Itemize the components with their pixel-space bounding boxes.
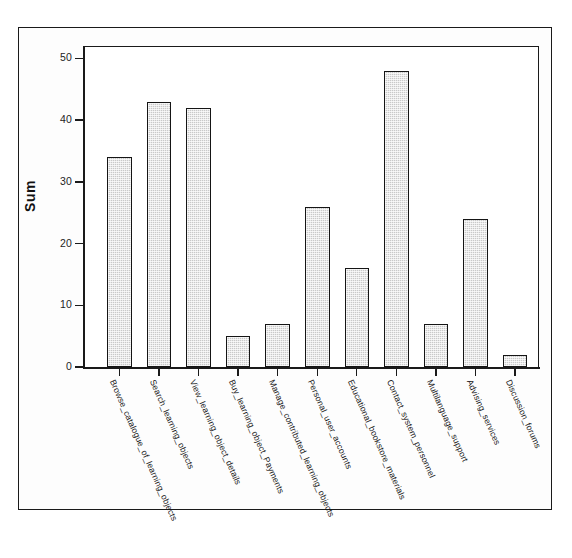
x-axis-tick xyxy=(158,368,159,376)
bar xyxy=(265,324,290,367)
y-axis-tick-label-wrap: 40 xyxy=(38,113,72,125)
y-axis-tick-label-wrap: 0 xyxy=(38,360,72,372)
bar xyxy=(345,268,370,367)
bar xyxy=(503,355,528,367)
bar xyxy=(107,157,132,367)
y-axis-tick-label: 30 xyxy=(44,175,72,187)
bar xyxy=(463,219,488,367)
x-axis-tick xyxy=(237,368,238,376)
bar xyxy=(226,336,251,367)
bars-layer xyxy=(83,46,540,367)
y-axis-tick-label: 20 xyxy=(44,237,72,249)
x-axis-tick xyxy=(317,368,318,376)
bar xyxy=(147,102,172,367)
x-axis-line xyxy=(83,367,540,369)
x-axis-tick xyxy=(435,368,436,376)
bar xyxy=(305,207,330,368)
x-axis-tick xyxy=(277,368,278,376)
x-axis-tick xyxy=(396,368,397,376)
bar-chart-figure: Sum 01020304050 Browse_catalogue_of_lear… xyxy=(0,0,572,558)
bar xyxy=(384,71,409,367)
y-axis-tick-label: 40 xyxy=(44,113,72,125)
x-axis-tick xyxy=(514,368,515,376)
y-axis-tick-label-wrap: 30 xyxy=(38,175,72,187)
y-axis-tick-label-wrap: 50 xyxy=(38,51,72,63)
y-axis-tick-label: 0 xyxy=(44,360,72,372)
x-axis-tick xyxy=(475,368,476,376)
bar xyxy=(186,108,211,367)
y-axis-tick-label-wrap: 10 xyxy=(38,298,72,310)
y-axis-tick-label-wrap: 20 xyxy=(38,237,72,249)
x-axis-tick xyxy=(119,368,120,376)
y-axis-tick-label: 50 xyxy=(44,51,72,63)
y-axis-tick-label: 10 xyxy=(44,298,72,310)
x-axis-tick xyxy=(198,368,199,376)
bar xyxy=(424,324,449,367)
x-axis-tick xyxy=(356,368,357,376)
y-axis-title: Sum xyxy=(22,164,38,228)
